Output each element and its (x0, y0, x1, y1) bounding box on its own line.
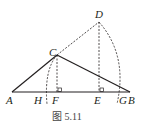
label-A: A (5, 94, 13, 106)
segment-AC (12, 55, 57, 92)
label-G: G (119, 94, 127, 106)
label-F: F (51, 94, 59, 106)
segment-CD (57, 22, 99, 55)
label-C: C (49, 46, 57, 58)
label-D: D (94, 8, 103, 20)
right-angle-mark-E (100, 88, 104, 92)
right-angle-mark-F (58, 88, 62, 92)
geometry-figure: D C A H F E G B 图 5.11 (0, 0, 148, 124)
label-B: B (128, 94, 135, 106)
label-E: E (93, 94, 101, 106)
segment-CB (57, 55, 130, 92)
label-H: H (33, 94, 43, 106)
figure-caption: 图 5.11 (52, 111, 82, 122)
